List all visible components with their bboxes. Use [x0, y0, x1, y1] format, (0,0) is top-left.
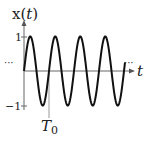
- t0-label: T0: [41, 117, 58, 137]
- x-axis-label: t: [137, 62, 144, 80]
- tick-label-neg: −1: [5, 100, 21, 113]
- y-axis-label: x(t): [12, 5, 38, 23]
- sinusoid-diagram: x(t) 1 −1 ··· ··· t T0: [0, 0, 150, 142]
- ellipsis-right: ···: [124, 57, 134, 68]
- x-axis-arrow-icon: [129, 69, 135, 74]
- tick-label-pos: 1: [15, 31, 22, 44]
- ellipsis-left: ···: [4, 57, 14, 68]
